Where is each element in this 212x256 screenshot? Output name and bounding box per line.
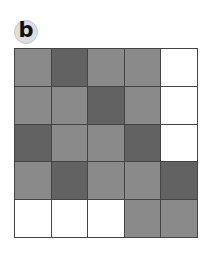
grid-cell-r0-c4: [161, 49, 197, 86]
grid-cell-r3-c4: [161, 162, 197, 199]
grid-cell-r3-c0: [15, 162, 51, 199]
grid-cell-r3-c2: [88, 162, 124, 199]
grid-cell-r0-c0: [15, 49, 51, 86]
panel-label-badge: b: [14, 20, 38, 44]
grid-cell-r3-c1: [52, 162, 88, 199]
grid-cell-r2-c3: [125, 125, 161, 162]
grid-cell-r2-c4: [161, 125, 197, 162]
grid-cell-r4-c0: [15, 200, 51, 237]
grid-cell-r4-c4: [161, 200, 197, 237]
panel-label: b: [18, 20, 33, 41]
grid-cell-r2-c1: [52, 125, 88, 162]
grid-cell-r4-c2: [88, 200, 124, 237]
grid-cell-r4-c1: [52, 200, 88, 237]
grid-cell-r0-c2: [88, 49, 124, 86]
grid-cell-r2-c2: [88, 125, 124, 162]
grid-cell-r4-c3: [125, 200, 161, 237]
grid-cell-r1-c4: [161, 87, 197, 124]
shaded-grid: [14, 48, 198, 238]
grid-cell-r3-c3: [125, 162, 161, 199]
grid-cell-r1-c0: [15, 87, 51, 124]
grid-cell-r2-c0: [15, 125, 51, 162]
grid-cell-r0-c3: [125, 49, 161, 86]
grid-cell-r1-c1: [52, 87, 88, 124]
grid-cell-r1-c2: [88, 87, 124, 124]
grid-cell-r0-c1: [52, 49, 88, 86]
grid-cell-r1-c3: [125, 87, 161, 124]
